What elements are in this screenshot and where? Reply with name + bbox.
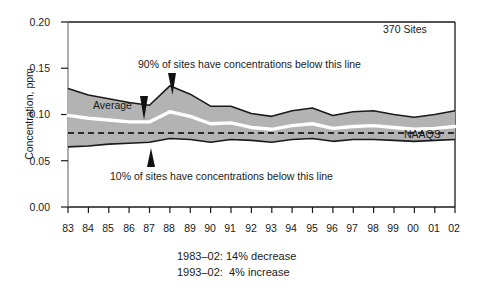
p90-annotation: 90% of sites have concentrations below t… [138,58,361,70]
sites-count-label: 370 Sites [383,23,427,35]
chart-figure: Concentration, ppm 0.20 0.15 0.10 0.05 0… [0,0,484,297]
naaqs-label: NAAQS [404,128,441,140]
percentile-band [68,86,455,147]
p10-annotation: 10% of sites have concentrations below t… [110,170,333,182]
x-ticks [68,207,455,213]
footnote-trend-1983: 1983–02: 14% decrease [177,250,296,262]
average-label: Average [93,99,132,111]
footnote-trend-1993: 1993–02: 4% increase [177,266,290,278]
arrow-p10-pointer [147,148,155,167]
